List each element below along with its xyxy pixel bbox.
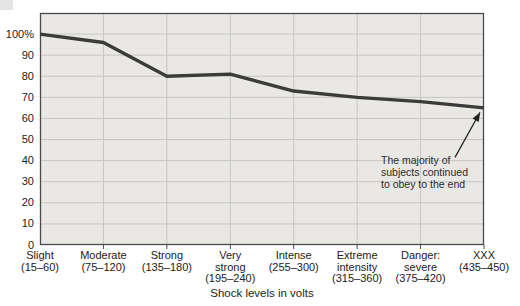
x-category-label: Slight (15–60) <box>4 250 76 273</box>
x-category-label: Moderate (75–120) <box>67 250 139 273</box>
obedience-line-chart: The majority of subjects continued to ob… <box>0 0 520 306</box>
x-category-label: Strong (135–180) <box>131 250 203 273</box>
x-axis-title: Shock levels in volts <box>40 287 484 299</box>
x-axis-labels: Slight (15–60)Moderate (75–120)Strong (1… <box>0 0 520 306</box>
x-category-label: Danger: severe (375–420) <box>385 250 457 285</box>
x-category-label: XXX (435–450) <box>448 250 520 273</box>
x-category-label: Extreme intensity (315–360) <box>321 250 393 285</box>
x-category-label: Very strong (195–240) <box>194 250 266 285</box>
x-category-label: Intense (255–300) <box>258 250 330 273</box>
